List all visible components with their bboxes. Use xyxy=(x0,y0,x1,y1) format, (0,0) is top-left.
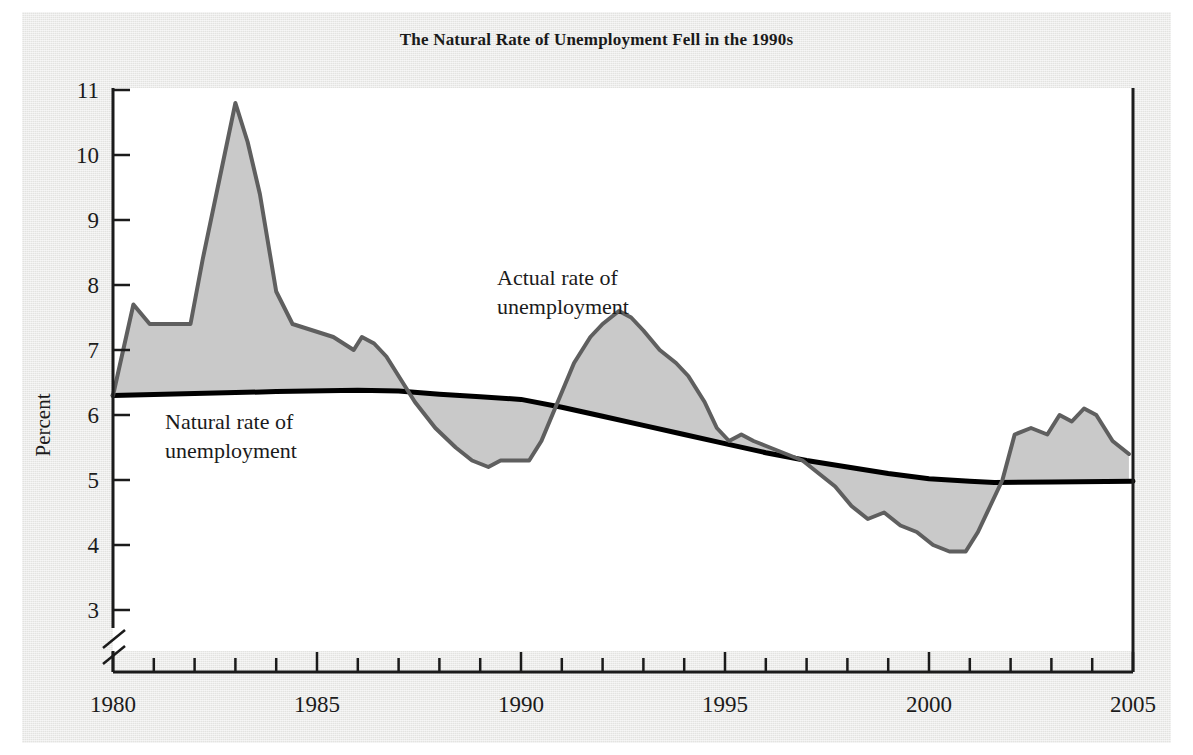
annotation-natural-line1: Natural rate of xyxy=(165,409,294,434)
x-tick-label: 2005 xyxy=(1110,692,1156,717)
y-tick-label: 10 xyxy=(76,143,99,168)
x-tick-label: 2000 xyxy=(906,692,952,717)
chart-canvas: 34567891011 198019851990199520002005 Per… xyxy=(0,0,1193,755)
x-tick-label: 1985 xyxy=(294,692,340,717)
y-tick-label: 5 xyxy=(88,468,100,493)
annotation-actual-line1: Actual rate of xyxy=(497,265,619,290)
x-tick-label: 1980 xyxy=(90,692,136,717)
figure-root: The Natural Rate of Unemployment Fell in… xyxy=(0,0,1193,755)
y-tick-label: 7 xyxy=(88,338,100,363)
y-axis-title: Percent xyxy=(31,393,55,456)
y-tick-label: 6 xyxy=(88,403,100,428)
x-axis-ticks: 198019851990199520002005 xyxy=(90,652,1156,717)
x-tick-label: 1995 xyxy=(702,692,748,717)
y-tick-label: 3 xyxy=(88,598,100,623)
y-tick-label: 11 xyxy=(77,78,99,103)
y-tick-label: 4 xyxy=(88,533,100,558)
x-tick-label: 1990 xyxy=(498,692,544,717)
y-tick-label: 8 xyxy=(88,273,100,298)
annotation-actual-line2: unemployment xyxy=(497,294,629,319)
annotation-natural-line2: unemployment xyxy=(165,438,297,463)
y-tick-label: 9 xyxy=(88,208,100,233)
